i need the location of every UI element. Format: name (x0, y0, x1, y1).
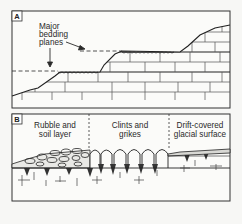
limestone-diagram: A Major bedding planes (0, 0, 242, 224)
zone-2-line-1: Clints and (112, 121, 149, 130)
panel-b-tag: B (14, 115, 20, 124)
zone-2-line-2: grikes (119, 130, 141, 139)
zone-3-line-1: Drift-covered (177, 121, 224, 130)
panel-b: B Rubble and soil layer Clints and grike… (12, 114, 230, 201)
panel-a-tag: A (14, 12, 20, 21)
panel-a: A Major bedding planes (0, 11, 242, 108)
annotation-line-3: planes (39, 38, 63, 47)
zone-3-line-2: glacial surface (174, 130, 227, 139)
zone-1-line-1: Rubble and (34, 121, 76, 130)
zone-1-line-2: soil layer (39, 130, 72, 139)
